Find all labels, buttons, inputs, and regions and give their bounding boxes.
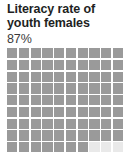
waffle-cell-filled — [89, 48, 99, 58]
waffle-cell-filled — [78, 72, 88, 82]
waffle-cell-filled — [66, 142, 76, 152]
waffle-cell-filled — [101, 119, 111, 129]
waffle-cell-filled — [54, 130, 64, 140]
waffle-grid — [7, 48, 127, 154]
waffle-cell-filled — [42, 130, 52, 140]
waffle-cell-filled — [7, 48, 17, 58]
waffle-cell-filled — [19, 72, 29, 82]
waffle-cell-filled — [7, 130, 17, 140]
waffle-cell-filled — [78, 60, 88, 70]
waffle-cell-filled — [113, 72, 123, 82]
waffle-cell-filled — [7, 72, 17, 82]
waffle-cell-filled — [66, 83, 76, 93]
waffle-cell-filled — [89, 119, 99, 129]
waffle-cell-filled — [42, 83, 52, 93]
waffle-cell-empty — [113, 142, 123, 152]
waffle-cell-filled — [89, 72, 99, 82]
waffle-cell-filled — [19, 83, 29, 93]
waffle-cell-filled — [31, 83, 41, 93]
waffle-cell-filled — [42, 60, 52, 70]
waffle-cell-filled — [113, 48, 123, 58]
waffle-cell-filled — [7, 83, 17, 93]
waffle-cell-filled — [42, 95, 52, 105]
waffle-cell-filled — [31, 119, 41, 129]
waffle-cell-filled — [42, 142, 52, 152]
waffle-cell-filled — [54, 48, 64, 58]
waffle-cell-filled — [78, 119, 88, 129]
waffle-cell-filled — [31, 48, 41, 58]
waffle-cell-filled — [42, 119, 52, 129]
waffle-cell-filled — [78, 107, 88, 117]
waffle-cell-filled — [113, 119, 123, 129]
waffle-cell-filled — [19, 119, 29, 129]
waffle-cell-filled — [7, 60, 17, 70]
waffle-cell-filled — [31, 130, 41, 140]
waffle-cell-filled — [7, 119, 17, 129]
waffle-cell-filled — [113, 95, 123, 105]
waffle-cell-filled — [7, 107, 17, 117]
waffle-cell-filled — [101, 48, 111, 58]
waffle-cell-filled — [89, 83, 99, 93]
waffle-cell-filled — [54, 83, 64, 93]
waffle-cell-filled — [66, 48, 76, 58]
waffle-cell-filled — [89, 130, 99, 140]
waffle-cell-filled — [78, 48, 88, 58]
waffle-cell-filled — [78, 130, 88, 140]
waffle-cell-filled — [19, 95, 29, 105]
waffle-cell-filled — [54, 142, 64, 152]
waffle-cell-filled — [19, 60, 29, 70]
waffle-cell-filled — [54, 119, 64, 129]
waffle-cell-filled — [78, 83, 88, 93]
page-title: Literacy rate of youth females — [7, 3, 126, 30]
waffle-cell-filled — [78, 95, 88, 105]
waffle-cell-filled — [101, 83, 111, 93]
waffle-cell-filled — [113, 83, 123, 93]
waffle-cell-filled — [101, 95, 111, 105]
waffle-cell-empty — [101, 142, 111, 152]
waffle-cell-filled — [19, 107, 29, 117]
waffle-cell-filled — [31, 142, 41, 152]
waffle-cell-filled — [89, 107, 99, 117]
waffle-cell-filled — [101, 60, 111, 70]
waffle-cell-filled — [42, 107, 52, 117]
waffle-cell-filled — [31, 72, 41, 82]
waffle-cell-filled — [113, 107, 123, 117]
waffle-cell-filled — [54, 95, 64, 105]
waffle-cell-filled — [7, 95, 17, 105]
literacy-rate-waffle-card: Literacy rate of youth females 87% — [0, 0, 131, 154]
waffle-cell-filled — [66, 60, 76, 70]
waffle-cell-filled — [54, 60, 64, 70]
waffle-cell-filled — [42, 48, 52, 58]
waffle-cell-filled — [66, 130, 76, 140]
waffle-cell-filled — [101, 72, 111, 82]
waffle-cell-filled — [42, 72, 52, 82]
waffle-cell-filled — [19, 142, 29, 152]
waffle-cell-empty — [89, 142, 99, 152]
waffle-cell-filled — [101, 107, 111, 117]
waffle-cell-filled — [31, 60, 41, 70]
waffle-cell-filled — [31, 95, 41, 105]
waffle-cell-filled — [113, 130, 123, 140]
waffle-cell-filled — [89, 60, 99, 70]
waffle-cell-filled — [78, 142, 88, 152]
waffle-cell-filled — [66, 72, 76, 82]
waffle-cell-filled — [66, 107, 76, 117]
waffle-cell-filled — [89, 95, 99, 105]
waffle-cell-filled — [19, 48, 29, 58]
waffle-cell-filled — [54, 72, 64, 82]
waffle-cell-filled — [66, 119, 76, 129]
chart-value-label: 87% — [7, 32, 126, 47]
waffle-cell-filled — [7, 142, 17, 152]
waffle-cell-filled — [31, 107, 41, 117]
waffle-cell-filled — [101, 130, 111, 140]
waffle-chart — [7, 48, 127, 154]
waffle-cell-filled — [66, 95, 76, 105]
waffle-cell-filled — [54, 107, 64, 117]
waffle-cell-filled — [19, 130, 29, 140]
waffle-cell-filled — [113, 60, 123, 70]
